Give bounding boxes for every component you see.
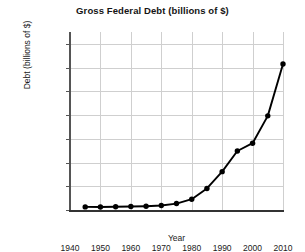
- data-point: [219, 169, 224, 174]
- data-point: [143, 203, 148, 208]
- gridline-vertical: [283, 32, 284, 210]
- data-point: [204, 186, 209, 191]
- data-series-debt: [70, 32, 283, 210]
- data-point: [174, 201, 179, 206]
- x-tick-label: 2010: [263, 244, 303, 252]
- data-point: [280, 61, 285, 66]
- y-axis-label: Debt (billions of $): [22, 0, 32, 120]
- data-point: [235, 148, 240, 153]
- data-point: [113, 204, 118, 209]
- data-point: [189, 197, 194, 202]
- x-axis-line: [69, 210, 284, 212]
- data-point: [128, 204, 133, 209]
- plot-area: 02,0004,0006,0008,00010,00012,00014,000 …: [70, 32, 283, 210]
- series-markers: [83, 61, 286, 209]
- x-axis-label: Year: [70, 233, 283, 243]
- data-point: [250, 141, 255, 146]
- data-point: [159, 203, 164, 208]
- chart-figure: Gross Federal Debt (billions of $) Debt …: [0, 0, 305, 252]
- series-line: [85, 64, 283, 207]
- data-point: [265, 113, 270, 118]
- data-point: [83, 204, 88, 209]
- data-point: [98, 204, 103, 209]
- chart-title: Gross Federal Debt (billions of $): [0, 5, 305, 16]
